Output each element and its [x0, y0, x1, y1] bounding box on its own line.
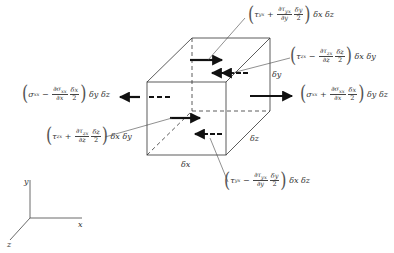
label-tau-zx-back: (τzx − ∂τzx∂z δz2 ) δx δy: [290, 48, 376, 64]
stress-element-diagram: δx δy δz y x z: [0, 0, 394, 253]
label-tau-yx-bottom: (τyx − ∂τyx∂y δy2 ) δx δz: [224, 172, 310, 188]
label-tau-zx-front: (τzx + ∂τzx∂z δz2 ) δx δy: [46, 128, 132, 144]
dz-label: δz: [250, 134, 260, 143]
dx-label: δx: [181, 160, 191, 169]
x-axis-label: x: [78, 220, 83, 229]
label-sigma-xx-right: (σxx + ∂σxx∂x δx2 ) δy δz: [300, 86, 388, 102]
z-axis: [10, 218, 30, 240]
dy-label: δy: [272, 70, 282, 79]
label-tau-yx-top: (τyx + ∂τyx∂y δy2 ) δx δz: [248, 6, 334, 22]
y-axis-label: y: [23, 177, 29, 186]
z-axis-label: z: [6, 240, 12, 249]
label-sigma-xx-left: (σxx − ∂σxx∂x δx2 ) δy δz: [22, 86, 110, 102]
